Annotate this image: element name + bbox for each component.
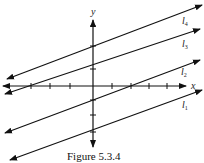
y-axis-label: y [90,6,96,17]
label-l3: l3 [182,38,188,50]
figure-caption: Figure 5.3.4 [67,150,121,162]
figure-5-3-4: x y l4 l3 l2 l1 [0,0,204,163]
x-axis-label: x [190,80,196,91]
parallel-lines-diagram: x y l4 l3 l2 l1 [0,0,204,163]
line-l4 [7,5,202,79]
y-axis: y [90,6,96,147]
label-l4: l4 [182,15,188,27]
label-l1: l1 [182,99,188,111]
line-l3 [5,29,200,94]
line-l2 [5,60,200,133]
label-l2: l2 [181,66,187,78]
